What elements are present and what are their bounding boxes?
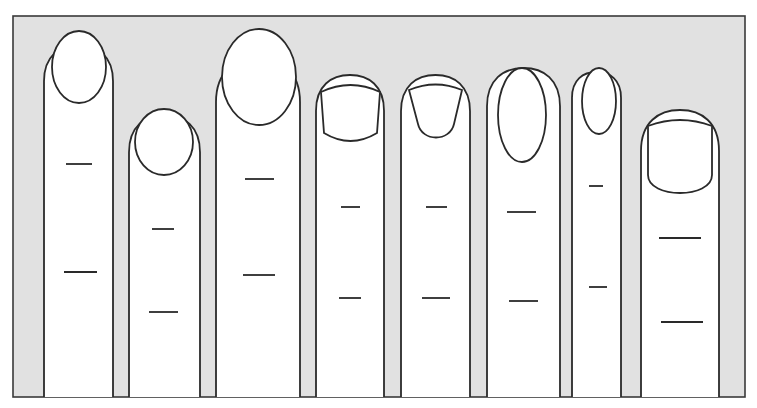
finger-8 — [641, 110, 719, 397]
finger-6 — [487, 68, 560, 397]
fingernail-shapes-figure — [0, 0, 757, 408]
nail-large-oval — [222, 29, 296, 125]
finger-5 — [401, 75, 470, 397]
fingernail-illustration — [0, 0, 757, 408]
finger-1 — [44, 31, 113, 397]
nail-broad-square — [648, 120, 712, 193]
finger-3 — [216, 29, 300, 397]
finger-4 — [316, 75, 384, 397]
nail-oval — [52, 31, 106, 103]
finger-2 — [129, 109, 200, 397]
nail-round — [135, 109, 193, 175]
nail-square — [321, 85, 380, 141]
finger-7 — [572, 68, 621, 397]
nail-small-oval — [582, 68, 616, 134]
nail-almond — [498, 68, 546, 162]
